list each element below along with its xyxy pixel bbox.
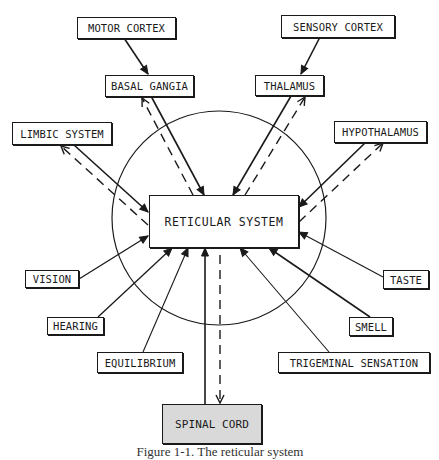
node-basal-gangia: BASAL GANGIA [105, 75, 194, 97]
arrow-reticular-to-thalamus [245, 97, 305, 195]
node-vision: VISION [25, 270, 79, 288]
arrow-reticular-to-hypothalamus [299, 143, 383, 222]
node-taste: TASTE [383, 270, 429, 289]
figure-caption: Figure 1-1. The reticular system [120, 444, 320, 460]
arrow-smell-to-reticular [269, 248, 370, 317]
arrow-hypothalamus-to-reticular [299, 143, 365, 207]
node-trigeminal-sensation: TRIGEMINAL SENSATION [278, 352, 430, 373]
arrow-hearing-to-reticular [98, 248, 172, 317]
node-reticular-system: RETICULAR SYSTEM [149, 195, 299, 248]
arrow-sensory-to-thalamus [301, 37, 320, 74]
arrow-vision-to-reticular [79, 236, 148, 279]
arrow-taste-to-reticular [299, 232, 383, 277]
node-spinal-cord: SPINAL CORD [162, 404, 262, 444]
arrow-limbic-to-reticular [74, 145, 148, 212]
node-hearing: HEARING [47, 317, 104, 335]
arrow-thalamus-to-reticular [233, 96, 291, 195]
node-smell: SMELL [349, 317, 393, 336]
node-sensory-cortex: SENSORY CORTEX [281, 15, 395, 38]
arrow-basal-to-reticular [151, 96, 204, 195]
arrow-motor-to-basal [124, 38, 148, 74]
node-hypothalamus: HYPOTHALAMUS [334, 121, 427, 143]
arrow-reticular-to-limbic [61, 146, 148, 225]
node-motor-cortex: MOTOR CORTEX [77, 17, 176, 39]
node-thalamus: THALAMUS [255, 75, 324, 96]
node-equilibrium: EQUILIBRIUM [97, 352, 183, 373]
arrow-reticular-to-basal [142, 98, 193, 195]
node-limbic-system: LIMBIC SYSTEM [12, 122, 112, 145]
